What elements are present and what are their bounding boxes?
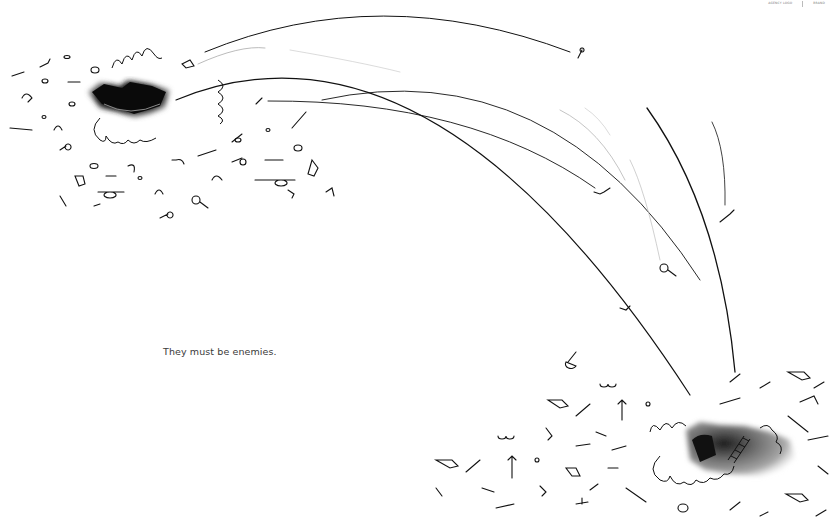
debris-left (10, 56, 334, 219)
tagline-text: They must be enemies. (163, 346, 277, 357)
logo-divider (802, 1, 803, 7)
illustration-canvas (0, 0, 837, 523)
agency-logo: AGENCY LOGO (768, 1, 792, 5)
brand-logo: BRAND (813, 1, 825, 5)
debris-flying (578, 48, 734, 310)
left-hole (88, 80, 170, 118)
logo-block: AGENCY LOGO BRAND (768, 1, 825, 7)
right-hole (686, 422, 795, 476)
flight-arcs (176, 16, 735, 395)
